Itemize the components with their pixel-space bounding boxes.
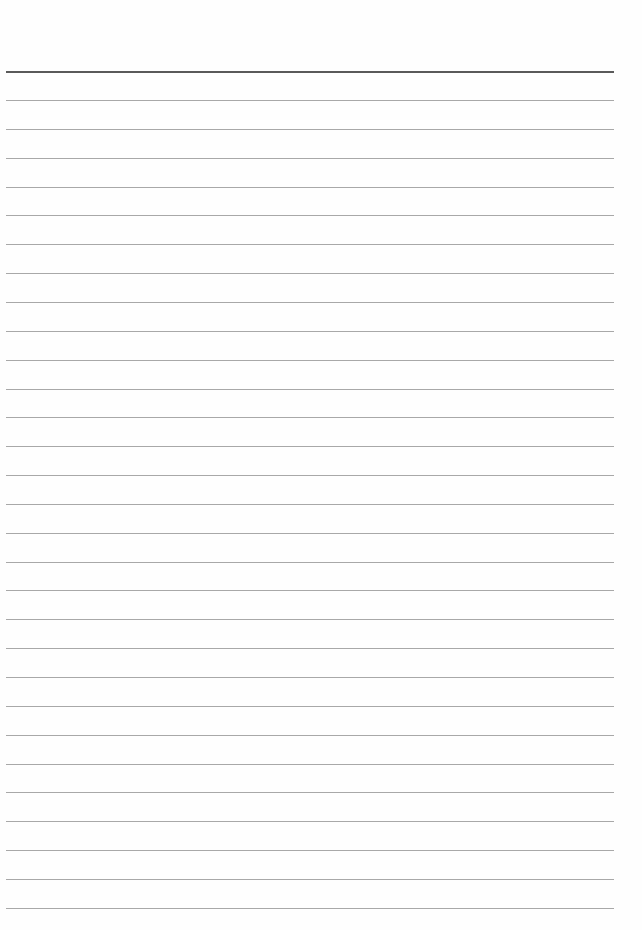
ruled-line — [6, 792, 614, 793]
ruled-line — [6, 908, 614, 909]
ruled-line — [6, 129, 614, 130]
ruled-line — [6, 273, 614, 274]
ruled-line — [6, 562, 614, 563]
ruled-line — [6, 187, 614, 188]
ruled-line — [6, 100, 614, 101]
ruled-line — [6, 475, 614, 476]
ruled-line — [6, 706, 614, 707]
ruled-line — [6, 850, 614, 851]
ruled-line — [6, 417, 614, 418]
ruled-line — [6, 504, 614, 505]
ruled-line — [6, 821, 614, 822]
ruled-line — [6, 677, 614, 678]
ruled-line — [6, 158, 614, 159]
ruled-line — [6, 879, 614, 880]
ruled-line — [6, 735, 614, 736]
ruled-line — [6, 389, 614, 390]
ruled-line — [6, 244, 614, 245]
ruled-line — [6, 302, 614, 303]
ruled-line — [6, 619, 614, 620]
ruled-line — [6, 590, 614, 591]
ruled-line — [6, 360, 614, 361]
header-rule — [6, 71, 614, 73]
ruled-line — [6, 648, 614, 649]
ruled-line — [6, 764, 614, 765]
lined-paper-page — [0, 0, 642, 930]
ruled-line — [6, 331, 614, 332]
ruled-line — [6, 446, 614, 447]
ruled-line — [6, 533, 614, 534]
ruled-line — [6, 215, 614, 216]
